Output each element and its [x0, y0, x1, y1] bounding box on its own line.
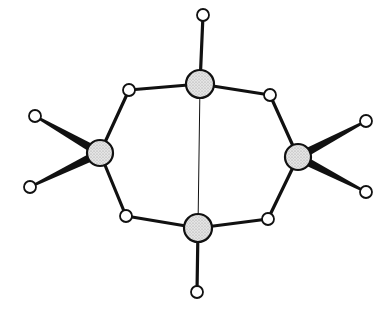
bond-layer	[29, 15, 366, 292]
small-atom	[120, 210, 132, 222]
large-atom	[285, 144, 311, 170]
large-atom	[87, 140, 113, 166]
small-atom	[29, 110, 41, 122]
small-atom	[123, 84, 135, 96]
small-atom	[360, 115, 372, 127]
small-atom	[197, 9, 209, 21]
small-atom	[191, 286, 203, 298]
small-atom	[360, 186, 372, 198]
large-atom	[184, 214, 212, 242]
small-atom	[262, 213, 274, 225]
large-atom	[186, 70, 214, 98]
small-atom	[264, 89, 276, 101]
thin-bond	[198, 84, 200, 228]
molecule-diagram	[0, 0, 380, 310]
molecule-svg	[0, 0, 380, 310]
small-atom	[24, 181, 36, 193]
